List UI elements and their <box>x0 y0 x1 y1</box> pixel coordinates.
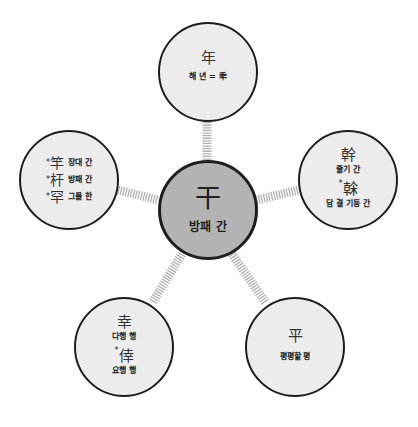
hanja: 幹 <box>341 147 356 164</box>
hanja: 杆 <box>50 172 64 188</box>
hanja: 倖 <box>119 347 134 365</box>
hanja: 年 <box>201 50 216 67</box>
meaning: 해 년 = 秊 <box>189 71 226 83</box>
node-right: 幹 줄기 간 *榦 담 결 기둥 간 <box>298 130 398 230</box>
node-top: 年 해 년 = 秊 <box>158 22 258 122</box>
connector-left <box>118 190 158 200</box>
list-item: *罕 그물 한 <box>46 189 92 206</box>
node-left: *竿 장대 간 *杆 방패 간 *罕 그물 한 <box>19 130 119 230</box>
center-meaning: 방패 간 <box>189 219 226 235</box>
meaning: 그물 한 <box>68 191 92 203</box>
center-node: 干 방패 간 <box>158 160 258 260</box>
node-bottom-left: 幸 다행 행 *倖 요행 행 <box>74 297 174 397</box>
meaning: 줄기 간 <box>336 164 360 176</box>
hanja: 罕 <box>50 189 64 205</box>
hanja: 榦 <box>343 180 358 198</box>
meaning: 방패 간 <box>68 174 92 186</box>
connector-bottom-right <box>232 254 266 303</box>
meaning: 요행 행 <box>112 365 136 377</box>
meaning: 평평할 평 <box>280 351 311 363</box>
node-bottom-right: 平 평평할 평 <box>245 297 345 397</box>
meaning: 담 결 기둥 간 <box>326 198 369 210</box>
list-item: *竿 장대 간 <box>46 155 92 172</box>
connector-right <box>256 190 299 200</box>
hanja: 平 <box>288 328 303 345</box>
hanja: 竿 <box>50 155 64 171</box>
meaning: 장대 간 <box>68 157 92 169</box>
connector-bottom-left <box>152 254 182 303</box>
list-item: *杆 방패 간 <box>46 172 92 189</box>
hanja-radial-diagram: 干 방패 간 年 해 년 = 秊 幹 줄기 간 *榦 담 결 기둥 간 *竿 장… <box>0 0 418 427</box>
center-hanja: 干 <box>195 183 221 213</box>
meaning: 다행 행 <box>112 331 136 343</box>
hanja: 幸 <box>117 314 132 331</box>
